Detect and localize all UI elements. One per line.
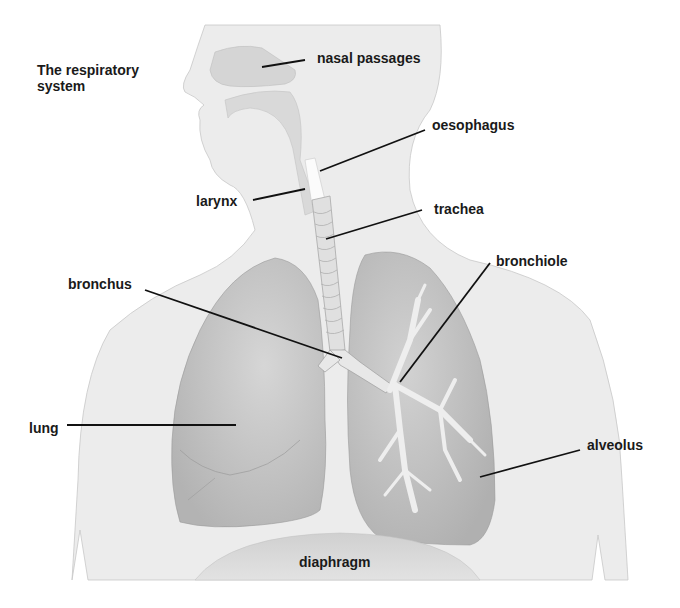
label-bronchus: bronchus [68, 276, 132, 292]
body-silhouette [72, 25, 628, 580]
label-alveolus: alveolus [587, 437, 643, 453]
title-line-1: The respiratory [37, 62, 139, 78]
label-bronchiole: bronchiole [496, 253, 568, 269]
label-trachea: trachea [434, 201, 484, 217]
label-diaphragm: diaphragm [299, 554, 371, 570]
title-line-2: system [37, 78, 139, 94]
label-oesophagus: oesophagus [432, 117, 514, 133]
label-lung: lung [29, 420, 59, 436]
label-larynx: larynx [196, 193, 237, 209]
label-nasal-passages: nasal passages [317, 50, 421, 66]
diagram-title: The respiratory system [37, 62, 139, 94]
